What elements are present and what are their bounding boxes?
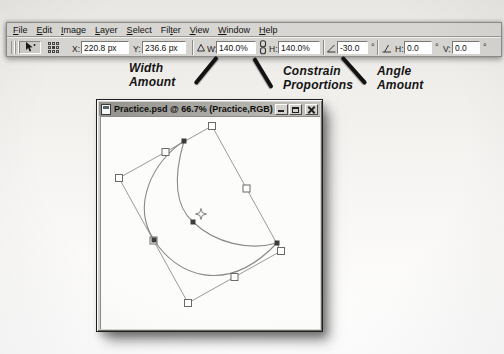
menu-item-edit[interactable]: Edit: [37, 25, 53, 35]
transform-handle[interactable]: [243, 185, 250, 192]
reference-point-locator-icon[interactable]: [46, 40, 61, 55]
menu-item-filter[interactable]: Filter: [161, 25, 181, 35]
y-label: Y:: [133, 44, 141, 54]
document-window: Practice.psd @ 66.7% (Practice,RGB): [96, 99, 323, 332]
minimize-icon: [278, 110, 284, 112]
path-anchor-point[interactable]: [191, 220, 196, 225]
callout-constrain-proportions: Constrain Proportions: [283, 64, 353, 92]
transform-options-bar: X: Y: W: H: ° H: ° V: °: [7, 37, 501, 56]
transform-handle[interactable]: [231, 274, 238, 281]
menu-item-select[interactable]: Select: [127, 25, 152, 35]
close-button[interactable]: [305, 104, 318, 115]
height-label: H:: [269, 44, 278, 54]
menu-item-view[interactable]: View: [190, 25, 209, 35]
menu-item-layer[interactable]: Layer: [95, 25, 118, 35]
skew-h-label: H:: [395, 44, 404, 54]
skew-h-field[interactable]: [404, 41, 432, 54]
document-title-bar[interactable]: Practice.psd @ 66.7% (Practice,RGB): [99, 102, 320, 116]
width-field[interactable]: [216, 41, 256, 54]
constrain-proportions-chain-icon[interactable]: [259, 40, 267, 55]
callout-angle-amount: Angle Amount: [377, 64, 424, 92]
relative-positioning-delta-icon[interactable]: [197, 44, 205, 52]
callout-width-amount: Width Amount: [129, 61, 176, 89]
callout-pointer-line: [252, 57, 273, 89]
height-field[interactable]: [278, 41, 320, 54]
transform-handle[interactable]: [278, 248, 285, 255]
document-icon: [101, 104, 111, 115]
callout-pointer-line: [193, 56, 218, 86]
crescent-inner-path: [177, 141, 277, 246]
move-tool-icon: [24, 42, 36, 53]
skew-v-label: V:: [443, 44, 451, 54]
current-tool-thumbnail: [19, 41, 41, 54]
menu-item-window[interactable]: Window: [218, 25, 250, 35]
x-position-field[interactable]: [81, 41, 129, 54]
skew-icon: [382, 44, 392, 53]
x-label: X:: [72, 44, 80, 54]
separator: [323, 40, 325, 55]
document-canvas[interactable]: [100, 116, 320, 329]
degree-symbol: °: [371, 42, 375, 52]
document-title: Practice.psd @ 66.7% (Practice,RGB): [114, 104, 274, 114]
path-anchor-point[interactable]: [152, 238, 157, 243]
menu-bar: FileEditImageLayerSelectFilterViewWindow…: [7, 23, 501, 37]
maximize-button[interactable]: [289, 104, 302, 115]
transform-handle[interactable]: [209, 123, 216, 130]
transform-preview: [101, 117, 321, 330]
reference-point-marker[interactable]: [196, 209, 207, 220]
degree-symbol: °: [435, 42, 439, 52]
menu-item-file[interactable]: File: [13, 25, 28, 35]
menu-item-help[interactable]: Help: [259, 25, 278, 35]
transform-bounding-box: [119, 126, 281, 303]
y-position-field[interactable]: [142, 41, 186, 54]
skew-v-field[interactable]: [452, 41, 480, 54]
menu-item-image[interactable]: Image: [61, 25, 86, 35]
degree-symbol: °: [483, 42, 487, 52]
transform-handle[interactable]: [185, 300, 192, 307]
minimize-button[interactable]: [275, 104, 288, 115]
separator: [377, 40, 379, 55]
rotate-angle-icon: [327, 44, 336, 53]
path-anchor-point[interactable]: [182, 139, 187, 144]
photoshop-toolbar: FileEditImageLayerSelectFilterViewWindow…: [6, 22, 502, 57]
transform-handle[interactable]: [162, 149, 169, 156]
path-anchor-point[interactable]: [275, 241, 280, 246]
angle-field[interactable]: [337, 41, 368, 54]
transform-handle[interactable]: [116, 175, 123, 182]
maximize-icon: [292, 107, 299, 113]
separator: [192, 40, 194, 55]
